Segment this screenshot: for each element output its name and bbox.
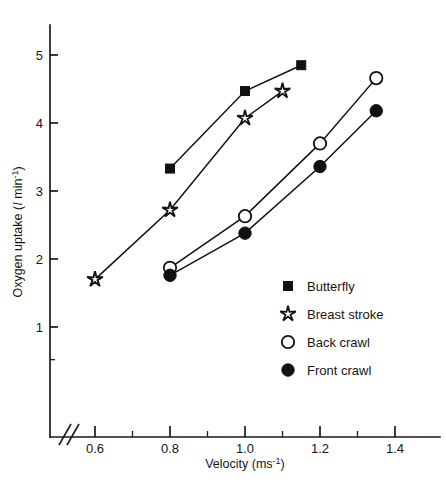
- series-front-crawl: [164, 105, 383, 282]
- series-line: [170, 65, 301, 168]
- y-axis-title-exponent: -1: [10, 171, 20, 179]
- x-tick-label: 0.8: [161, 441, 179, 456]
- data-point-marker: [237, 110, 253, 125]
- legend-item-breast-stroke[interactable]: Breast stroke: [280, 306, 383, 322]
- legend-label: Breast stroke: [307, 307, 384, 322]
- x-axis-title-exponent: -1: [273, 456, 281, 466]
- figure-caption: [0, 471, 446, 482]
- x-axis-title: Velocity (ms-1): [205, 456, 285, 471]
- legend-label: Butterfly: [307, 279, 355, 294]
- data-point-marker: [164, 269, 176, 281]
- data-point-marker: [241, 87, 250, 96]
- legend-item-butterfly[interactable]: Butterfly: [284, 279, 356, 294]
- x-tick-label: 0.6: [86, 441, 104, 456]
- y-axis-title-mid: min: [11, 179, 25, 203]
- data-point-marker: [166, 164, 175, 173]
- y-axis-title: Oxygen uptake (l min-1): [10, 166, 25, 297]
- open-circle-marker: [282, 336, 294, 348]
- x-tick-label: 1.2: [311, 441, 329, 456]
- x-axis-title-suffix: ): [281, 457, 285, 471]
- data-point-marker: [314, 160, 326, 172]
- y-tick-label: 3: [36, 184, 43, 199]
- legend-label: Front crawl: [307, 363, 371, 378]
- axis-layer: 123450.60.81.01.21.4: [36, 25, 440, 456]
- legend-item-front-crawl[interactable]: Front crawl: [282, 363, 372, 378]
- data-point-marker: [314, 137, 326, 149]
- y-axis-title-suffix: ): [11, 166, 25, 170]
- y-tick-label: 1: [36, 320, 43, 335]
- figure-panel: 123450.60.81.01.21.4 ButterflyBreast str…: [0, 0, 446, 482]
- series-butterfly: [166, 61, 306, 173]
- y-tick-label: 4: [36, 116, 43, 131]
- data-point-marker: [370, 72, 382, 84]
- chart-legend: ButterflyBreast strokeBack crawlFront cr…: [280, 279, 383, 378]
- oxygen-uptake-velocity-chart: 123450.60.81.01.21.4 ButterflyBreast str…: [0, 0, 446, 482]
- data-point-marker: [297, 61, 306, 70]
- filled-circle-marker: [282, 364, 294, 376]
- y-tick-label: 2: [36, 252, 43, 267]
- data-series-layer: [87, 61, 382, 286]
- legend-label: Back crawl: [307, 335, 370, 350]
- series-line: [95, 91, 283, 279]
- open-star-marker: [280, 306, 296, 321]
- legend-item-back-crawl[interactable]: Back crawl: [282, 335, 370, 350]
- series-back-crawl: [164, 72, 383, 274]
- series-line: [170, 111, 376, 276]
- x-tick-label: 1.4: [386, 441, 404, 456]
- data-point-marker: [239, 210, 251, 222]
- data-point-marker: [370, 105, 382, 117]
- y-tick-label: 5: [36, 48, 43, 63]
- x-tick-label: 1.0: [236, 441, 254, 456]
- filled-square-marker: [284, 282, 293, 291]
- data-point-marker: [239, 227, 251, 239]
